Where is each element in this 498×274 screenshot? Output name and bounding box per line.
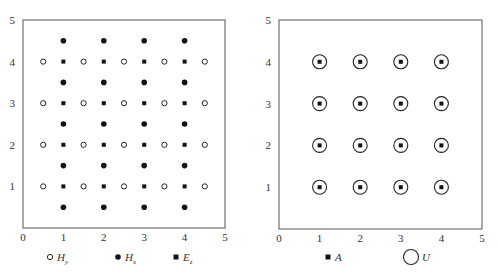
legend-subscript: x: [132, 258, 137, 266]
legend-label-hy: Hy: [56, 251, 69, 266]
point-hx-marker: [141, 121, 147, 127]
point-ez-marker: [102, 143, 106, 147]
point-a-marker: [358, 102, 362, 106]
point-hx-marker: [182, 38, 188, 44]
legend-a-marker: [326, 255, 331, 260]
x-tick-label: 3: [141, 231, 147, 243]
point-hx-marker: [101, 204, 107, 210]
y-tick-label: 5: [266, 14, 272, 26]
point-a-marker: [399, 102, 403, 106]
point-hx-marker: [101, 163, 107, 169]
x-tick-label: 4: [439, 232, 445, 244]
point-hy-marker: [81, 59, 86, 64]
right-plot-frame: [279, 20, 482, 229]
point-ez-marker: [142, 60, 146, 64]
point-a-marker: [318, 60, 322, 64]
right-markers: [313, 55, 449, 194]
point-ez-marker: [183, 101, 187, 105]
point-a-marker: [318, 102, 322, 106]
point-hx-marker: [61, 163, 67, 169]
left-tick-labels: 01234512345: [10, 14, 229, 243]
point-a-marker: [399, 185, 403, 189]
left-markers: [41, 38, 208, 210]
right-legend: AU: [326, 250, 432, 265]
point-hy-marker: [162, 59, 167, 64]
point-hy-marker: [81, 184, 86, 189]
point-hy-marker: [202, 184, 207, 189]
point-a-marker: [439, 143, 443, 147]
point-ez-marker: [183, 184, 187, 188]
point-hy-marker: [162, 142, 167, 147]
point-hx-marker: [101, 121, 107, 127]
legend-symbol: A: [334, 251, 342, 263]
y-tick-label: 4: [10, 56, 16, 68]
x-tick-label: 1: [317, 232, 323, 244]
point-ez-marker: [102, 60, 106, 64]
point-hy-marker: [121, 142, 126, 147]
legend-label-hx: Hx: [124, 251, 137, 266]
legend-symbol: U: [422, 251, 431, 263]
point-hy-marker: [121, 184, 126, 189]
point-ez-marker: [102, 101, 106, 105]
x-tick-label: 2: [357, 232, 363, 244]
legend-subscript: y: [64, 258, 69, 266]
legend-label-a: A: [334, 251, 342, 263]
point-hx-marker: [101, 38, 107, 44]
point-hx-marker: [182, 163, 188, 169]
point-ez-marker: [61, 184, 65, 188]
point-hy-marker: [202, 142, 207, 147]
point-a-marker: [439, 102, 443, 106]
y-tick-label: 5: [10, 14, 16, 26]
point-hy-marker: [81, 101, 86, 106]
point-hx-marker: [141, 80, 147, 86]
point-hx-marker: [101, 80, 107, 86]
x-tick-label: 4: [182, 231, 188, 243]
x-tick-label: 5: [479, 232, 485, 244]
left-plot-frame: [23, 20, 225, 228]
x-tick-label: 0: [20, 231, 26, 243]
legend-ez-marker: [174, 255, 179, 260]
y-tick-label: 1: [10, 180, 16, 192]
x-tick-label: 0: [276, 232, 282, 244]
point-hx-marker: [141, 163, 147, 169]
point-a-marker: [399, 60, 403, 64]
point-ez-marker: [183, 60, 187, 64]
point-hx-marker: [182, 80, 188, 86]
y-tick-label: 4: [266, 56, 272, 68]
point-a-marker: [439, 185, 443, 189]
point-ez-marker: [61, 101, 65, 105]
legend-hx-marker: [115, 254, 121, 260]
point-hy-marker: [162, 101, 167, 106]
point-a-marker: [399, 143, 403, 147]
point-hx-marker: [182, 204, 188, 210]
point-hy-marker: [41, 142, 46, 147]
x-tick-label: 3: [398, 232, 404, 244]
left-panel-grid: 01234512345 HyHxEz: [10, 14, 229, 266]
point-hx-marker: [182, 121, 188, 127]
point-ez-marker: [102, 184, 106, 188]
point-hy-marker: [41, 184, 46, 189]
point-hx-marker: [141, 38, 147, 44]
point-hx-marker: [61, 204, 67, 210]
point-hx-marker: [141, 204, 147, 210]
y-tick-label: 2: [266, 139, 272, 151]
point-hx-marker: [61, 80, 67, 86]
y-tick-label: 1: [266, 181, 272, 193]
point-hy-marker: [202, 101, 207, 106]
point-hy-marker: [41, 101, 46, 106]
point-a-marker: [439, 60, 443, 64]
point-hx-marker: [61, 121, 67, 127]
point-hx-marker: [61, 38, 67, 44]
point-ez-marker: [61, 143, 65, 147]
y-tick-label: 3: [10, 97, 16, 109]
diagram-canvas: 01234512345 HyHxEz 01234512345 AU: [0, 0, 498, 274]
right-panel-grid: 01234512345 AU: [266, 14, 486, 265]
right-tick-labels: 01234512345: [266, 14, 486, 244]
point-a-marker: [358, 60, 362, 64]
legend-label-ez: Ez: [182, 251, 193, 266]
x-tick-label: 5: [222, 231, 228, 243]
point-a-marker: [318, 143, 322, 147]
y-tick-label: 3: [266, 98, 272, 110]
x-tick-label: 1: [61, 231, 67, 243]
point-hy-marker: [41, 59, 46, 64]
